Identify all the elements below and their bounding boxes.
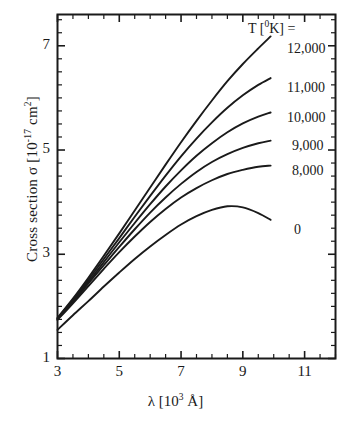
y-axis-label: Cross section σ [10-17 cm2] (23, 49, 41, 309)
legend-label: 9,000 (292, 138, 324, 154)
x-tick-label: 11 (293, 363, 317, 380)
x-tick-label: 5 (107, 363, 131, 380)
legend-label: 0 (294, 222, 301, 238)
legend-label: 12,000 (287, 41, 326, 57)
figure-container: Cross section σ [10-17 cm2] λ [103 Å] T … (0, 0, 351, 433)
legend-label: 11,000 (287, 80, 325, 96)
curve-10000 (58, 112, 271, 318)
legend-title: T [0K] = (248, 19, 295, 37)
x-axis-label: λ [103 Å] (0, 392, 351, 410)
axis-ticks (58, 15, 336, 359)
y-tick-label: 1 (30, 349, 50, 366)
legend-label: 8,000 (292, 163, 324, 179)
x-tick-label: 7 (169, 363, 193, 380)
data-curves (58, 36, 271, 329)
axes-frame (58, 15, 336, 359)
curve-0 (58, 206, 271, 330)
x-tick-label: 3 (46, 363, 70, 380)
x-tick-label: 9 (231, 363, 255, 380)
y-tick-label: 7 (30, 36, 50, 53)
legend-label: 10,000 (287, 110, 326, 126)
y-tick-label: 5 (30, 140, 50, 157)
y-tick-label: 3 (30, 244, 50, 261)
